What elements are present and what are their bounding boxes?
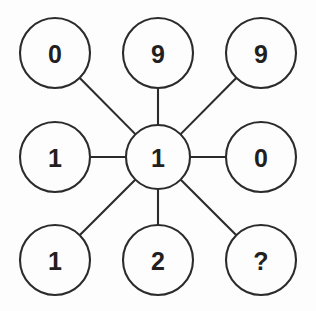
hub-node[interactable]: 1 bbox=[126, 125, 190, 189]
spoke-line bbox=[180, 179, 236, 235]
number-wheel-diagram: 0991012?1 bbox=[0, 0, 316, 311]
spoke-line bbox=[79, 179, 135, 235]
node-top-middle[interactable]: 9 bbox=[123, 18, 193, 88]
node-top-left[interactable]: 0 bbox=[20, 18, 90, 88]
node-value-label-top-left: 0 bbox=[48, 40, 62, 68]
node-value-label-bottom-left: 1 bbox=[48, 247, 62, 275]
node-bottom-left[interactable]: 1 bbox=[20, 225, 90, 295]
node-value-label-middle-right: 0 bbox=[254, 144, 268, 172]
node-value-label-bottom-middle: 2 bbox=[151, 247, 165, 275]
node-value-label-top-right: 9 bbox=[254, 40, 268, 68]
node-value-label-middle-left: 1 bbox=[48, 144, 62, 172]
node-value-label-bottom-right: ? bbox=[253, 247, 268, 275]
node-bottom-middle[interactable]: 2 bbox=[123, 225, 193, 295]
node-middle-right[interactable]: 0 bbox=[226, 122, 296, 192]
node-value-label-top-middle: 9 bbox=[151, 40, 165, 68]
hub-value-label: 1 bbox=[151, 144, 165, 172]
nodes-layer: 0991012?1 bbox=[20, 18, 296, 295]
spoke-line bbox=[79, 78, 136, 135]
diagram-canvas: 0991012?1 bbox=[0, 0, 316, 311]
node-top-right[interactable]: 9 bbox=[226, 18, 296, 88]
spoke-line bbox=[180, 78, 237, 135]
node-bottom-right[interactable]: ? bbox=[226, 225, 296, 295]
node-middle-left[interactable]: 1 bbox=[20, 122, 90, 192]
